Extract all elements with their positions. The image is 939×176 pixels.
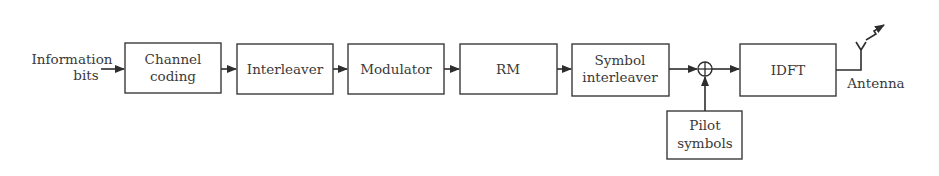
block-diagram: Information bits Channel coding Interlea… — [0, 0, 939, 176]
svg-text:bits: bits — [73, 67, 98, 83]
svg-text:Pilot: Pilot — [689, 117, 721, 133]
svg-text:symbols: symbols — [677, 135, 732, 151]
block-interleaver: Interleaver — [237, 44, 333, 94]
svg-text:Information: Information — [31, 51, 112, 67]
block-channel-coding: Channel coding — [125, 43, 221, 93]
block-modulator: Modulator — [348, 44, 444, 94]
adder-symbol — [698, 62, 712, 76]
svg-text:Channel: Channel — [145, 51, 202, 67]
svg-text:Modulator: Modulator — [360, 61, 432, 77]
svg-text:coding: coding — [150, 68, 196, 84]
radio-wave-icon — [866, 25, 884, 40]
antenna-label: Antenna — [846, 75, 904, 91]
block-symbol-interleaver: Symbol interleaver — [572, 44, 669, 96]
block-rm: RM — [460, 44, 557, 94]
input-label: Information bits — [31, 51, 112, 83]
svg-text:Interleaver: Interleaver — [247, 61, 324, 77]
svg-text:Symbol: Symbol — [595, 52, 646, 68]
svg-text:RM: RM — [496, 61, 520, 77]
svg-text:interleaver: interleaver — [582, 69, 658, 85]
block-idft: IDFT — [740, 44, 836, 96]
block-pilot-symbols: Pilot symbols — [667, 111, 742, 159]
svg-text:IDFT: IDFT — [771, 62, 806, 78]
antenna-icon — [836, 25, 884, 70]
